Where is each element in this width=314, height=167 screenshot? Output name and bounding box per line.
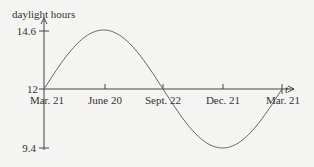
y-tick-label-low: 9.4: [22, 142, 36, 154]
x-tick-label-4: Mar. 21: [266, 94, 300, 106]
x-tick-label-0: Mar. 21: [30, 94, 64, 106]
y-tick-label-high: 14.6: [17, 25, 37, 37]
x-tick-label-1: June 20: [88, 94, 122, 106]
x-tick-label-2: Sept. 22: [145, 94, 181, 106]
x-tick-label-3: Dec. 21: [206, 94, 240, 106]
daylight-chart: daylight hours t 14.6 12 9.4 Mar. 21 Jun…: [0, 0, 314, 167]
y-axis-label: daylight hours: [12, 8, 75, 20]
